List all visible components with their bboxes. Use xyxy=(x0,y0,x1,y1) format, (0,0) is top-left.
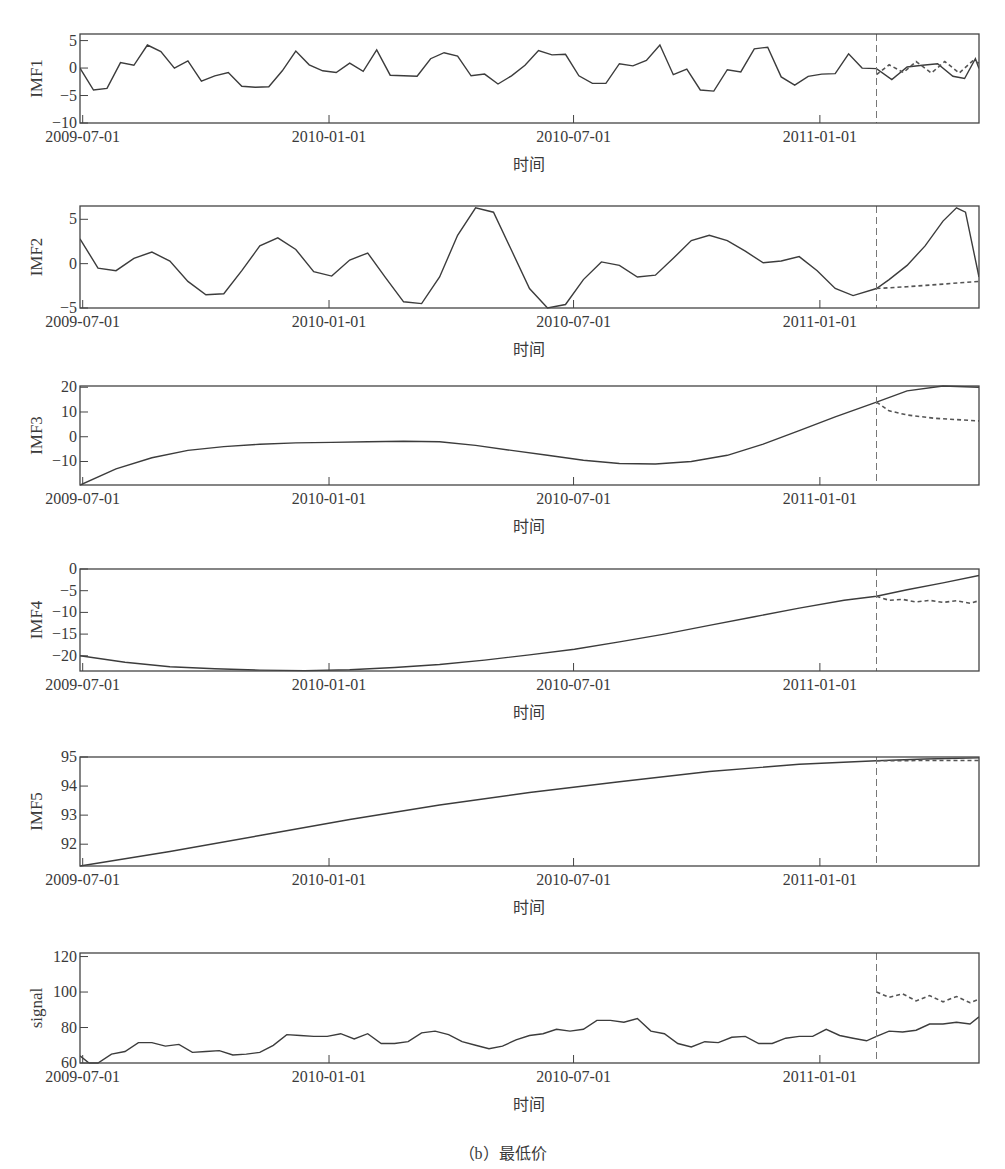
y-tick-label: −20 xyxy=(52,647,77,664)
y-tick-label: 0 xyxy=(69,255,77,272)
y-axis-label: IMF3 xyxy=(27,416,46,455)
y-tick-label: 0 xyxy=(69,59,77,76)
x-axis-label: 时间 xyxy=(513,156,545,173)
x-tick-label: 2009-07-01 xyxy=(45,871,120,888)
y-axis-label: signal xyxy=(27,987,46,1028)
x-tick-label: 2010-01-01 xyxy=(292,490,367,507)
forecast-series-line xyxy=(877,61,980,75)
y-tick-label: 100 xyxy=(53,983,77,1000)
subplot-imf1: 50−5−10IMF12009-07-012010-01-012010-07-0… xyxy=(27,32,979,173)
y-tick-label: −5 xyxy=(60,87,77,104)
actual-series-line xyxy=(80,576,979,671)
x-tick-label: 2010-07-01 xyxy=(536,490,611,507)
x-tick-label: 2010-07-01 xyxy=(536,128,611,145)
y-axis-label: IMF5 xyxy=(27,792,46,831)
actual-series-line xyxy=(80,45,979,91)
y-tick-label: −5 xyxy=(60,582,77,599)
x-tick-label: 2009-07-01 xyxy=(45,128,120,145)
x-tick-label: 2010-07-01 xyxy=(536,1068,611,1085)
x-tick-label: 2011-01-01 xyxy=(783,490,857,507)
y-tick-label: 0 xyxy=(69,428,77,445)
y-tick-label: 20 xyxy=(61,378,77,395)
x-tick-label: 2010-01-01 xyxy=(292,313,367,330)
x-axis-label: 时间 xyxy=(513,704,545,721)
forecast-series-line xyxy=(877,402,980,421)
x-tick-label: 2010-07-01 xyxy=(536,313,611,330)
x-tick-label: 2010-01-01 xyxy=(292,871,367,888)
axes-frame xyxy=(80,569,979,671)
y-tick-label: −10 xyxy=(52,603,77,620)
y-axis-label: IMF2 xyxy=(27,238,46,277)
y-tick-label: 95 xyxy=(61,748,77,765)
x-tick-label: 2011-01-01 xyxy=(783,313,857,330)
forecast-series-line xyxy=(877,992,980,1003)
y-tick-label: 0 xyxy=(69,560,77,577)
x-axis-label: 时间 xyxy=(513,899,545,916)
subplot-imf2: 50−5IMF22009-07-012010-01-012010-07-0120… xyxy=(27,206,979,358)
emd-decomposition-figure: 50−5−10IMF12009-07-012010-01-012010-07-0… xyxy=(0,0,1005,1169)
x-tick-label: 2009-07-01 xyxy=(45,1068,120,1085)
forecast-series-line xyxy=(877,281,980,288)
x-tick-label: 2011-01-01 xyxy=(783,128,857,145)
axes-frame xyxy=(80,34,979,123)
y-axis-label: IMF4 xyxy=(27,600,46,639)
x-axis-label: 时间 xyxy=(513,1096,545,1113)
y-tick-label: 80 xyxy=(61,1019,77,1036)
subplot-imf5: 95949392IMF52009-07-012010-01-012010-07-… xyxy=(27,748,979,916)
actual-series-line xyxy=(80,208,979,308)
axes-frame xyxy=(80,757,979,866)
x-tick-label: 2009-07-01 xyxy=(45,313,120,330)
y-tick-label: 5 xyxy=(69,32,77,49)
actual-series-line xyxy=(80,758,979,866)
x-axis-label: 时间 xyxy=(513,341,545,358)
y-tick-label: 92 xyxy=(61,835,77,852)
y-tick-label: 5 xyxy=(69,210,77,227)
x-tick-label: 2011-01-01 xyxy=(783,676,857,693)
x-tick-label: 2011-01-01 xyxy=(783,1068,857,1085)
x-tick-label: 2010-01-01 xyxy=(292,1068,367,1085)
y-tick-label: −15 xyxy=(52,625,77,642)
figure-caption: （b）最低价 xyxy=(0,1140,1005,1164)
y-axis-label: IMF1 xyxy=(27,59,46,98)
subplot-imf4: 0−5−10−15−20IMF42009-07-012010-01-012010… xyxy=(27,560,979,721)
axes-frame xyxy=(80,953,979,1063)
x-axis-label: 时间 xyxy=(513,518,545,535)
y-tick-label: −10 xyxy=(52,452,77,469)
y-tick-label: 10 xyxy=(61,403,77,420)
x-tick-label: 2010-07-01 xyxy=(536,676,611,693)
actual-series-line xyxy=(80,1017,979,1063)
actual-series-line xyxy=(80,386,979,485)
y-tick-label: 120 xyxy=(53,948,77,965)
x-tick-label: 2010-07-01 xyxy=(536,871,611,888)
forecast-series-line xyxy=(877,596,980,603)
x-tick-label: 2010-01-01 xyxy=(292,128,367,145)
x-tick-label: 2009-07-01 xyxy=(45,676,120,693)
x-tick-label: 2010-01-01 xyxy=(292,676,367,693)
y-tick-label: 94 xyxy=(61,777,77,794)
subplot-signal: 1201008060signal2009-07-012010-01-012010… xyxy=(27,948,979,1113)
subplot-imf3: 20100−10IMF32009-07-012010-01-012010-07-… xyxy=(27,378,979,535)
y-tick-label: 93 xyxy=(61,806,77,823)
axes-frame xyxy=(80,386,979,485)
x-tick-label: 2009-07-01 xyxy=(45,490,120,507)
x-tick-label: 2011-01-01 xyxy=(783,871,857,888)
